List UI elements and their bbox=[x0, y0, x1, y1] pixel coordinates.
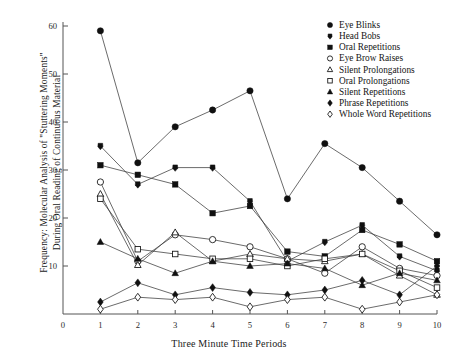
legend-label: Head Bobs bbox=[339, 31, 380, 41]
data-point bbox=[135, 160, 141, 166]
legend-label: Silent Prolongations bbox=[339, 65, 415, 75]
legend-item-phrase-repetitions: Phrase Repetitions bbox=[328, 98, 409, 108]
series-line bbox=[100, 194, 437, 295]
data-point bbox=[172, 124, 178, 130]
data-point bbox=[135, 293, 141, 301]
data-point bbox=[172, 182, 178, 188]
data-point bbox=[322, 239, 327, 245]
data-point bbox=[327, 22, 332, 27]
data-point bbox=[98, 196, 104, 202]
data-point bbox=[328, 45, 333, 50]
x-tick-label: 1 bbox=[98, 320, 102, 330]
legend-label: Eye Blinks bbox=[339, 20, 380, 30]
series-silent-repetitions bbox=[97, 239, 440, 288]
series-whole-word-repetitions bbox=[98, 291, 440, 313]
data-point bbox=[328, 78, 333, 83]
x-tick-label: 8 bbox=[360, 320, 364, 330]
data-point bbox=[284, 196, 290, 202]
figure-container: Frequency: Molecular Analysis of "Stutte… bbox=[0, 0, 458, 363]
data-point bbox=[247, 203, 253, 209]
data-point bbox=[247, 88, 253, 94]
data-point bbox=[327, 89, 332, 94]
data-point bbox=[247, 251, 254, 257]
data-point bbox=[247, 244, 253, 250]
data-point bbox=[285, 296, 291, 304]
data-point bbox=[135, 172, 141, 178]
data-point bbox=[98, 143, 103, 149]
series-line bbox=[100, 199, 437, 288]
chart-plot: 012345678910102030405060 Eye BlinksHead … bbox=[0, 0, 458, 363]
x-tick-label: 5 bbox=[248, 320, 252, 330]
data-point bbox=[98, 305, 104, 313]
data-point bbox=[328, 111, 333, 117]
data-point bbox=[359, 305, 365, 313]
legend-label: Eye Brow Raises bbox=[339, 53, 403, 63]
legend-item-head-bobs: Head Bobs bbox=[328, 31, 381, 41]
series-line bbox=[100, 165, 437, 261]
x-tick-label: 7 bbox=[323, 320, 328, 330]
data-point bbox=[397, 242, 403, 248]
series-phrase-repetitions bbox=[98, 262, 440, 306]
data-point bbox=[322, 293, 328, 301]
data-point bbox=[359, 227, 365, 233]
x-tick-label: 4 bbox=[210, 320, 215, 330]
data-point bbox=[97, 191, 104, 197]
legend-item-silent-prolongations: Silent Prolongations bbox=[327, 65, 415, 75]
data-point bbox=[210, 293, 216, 301]
data-point bbox=[135, 279, 141, 287]
x-tick-label: 0 bbox=[61, 320, 65, 330]
series-silent-prolongations bbox=[97, 191, 440, 298]
data-point bbox=[359, 251, 365, 257]
data-point bbox=[434, 232, 440, 238]
legend-label: Whole Word Repetitions bbox=[339, 109, 431, 119]
data-point bbox=[172, 296, 178, 304]
data-point bbox=[173, 165, 178, 171]
legend-item-whole-word-repetitions: Whole Word Repetitions bbox=[328, 109, 432, 119]
data-point bbox=[97, 239, 104, 245]
data-point bbox=[434, 285, 440, 291]
x-tick-label: 6 bbox=[285, 320, 290, 330]
x-tick-label: 2 bbox=[136, 320, 140, 330]
data-point bbox=[98, 162, 104, 168]
data-point bbox=[397, 298, 403, 306]
legend-item-oral-prolongations: Oral Prolongations bbox=[328, 76, 410, 86]
legend-label: Oral Repetitions bbox=[339, 42, 401, 52]
x-tick-label: 9 bbox=[397, 320, 401, 330]
data-point bbox=[328, 34, 332, 39]
data-point bbox=[322, 140, 328, 146]
data-point bbox=[97, 28, 103, 34]
legend-label: Phrase Repetitions bbox=[339, 98, 409, 108]
series-oral-prolongations bbox=[98, 196, 440, 290]
data-point bbox=[322, 256, 328, 262]
y-tick-label: 50 bbox=[48, 69, 57, 79]
legend-item-eye-brow-raises: Eye Brow Raises bbox=[327, 53, 403, 63]
data-point bbox=[328, 100, 333, 106]
data-point bbox=[209, 236, 215, 242]
legend-item-eye-blinks: Eye Blinks bbox=[327, 20, 380, 30]
data-point bbox=[172, 229, 179, 235]
chart-legend: Eye BlinksHead BobsOral RepetitionsEye B… bbox=[327, 20, 431, 119]
data-point bbox=[172, 251, 178, 257]
y-tick-label: 40 bbox=[48, 117, 57, 127]
data-point bbox=[247, 256, 253, 262]
data-point bbox=[210, 165, 215, 171]
y-tick-label: 10 bbox=[48, 261, 57, 271]
series-oral-repetitions bbox=[98, 162, 440, 264]
legend-label: Oral Prolongations bbox=[339, 76, 410, 86]
data-point bbox=[135, 182, 140, 188]
data-point bbox=[210, 284, 216, 292]
data-point bbox=[285, 249, 291, 255]
data-point bbox=[397, 254, 402, 260]
x-tick-label: 3 bbox=[173, 320, 177, 330]
data-point bbox=[247, 303, 253, 311]
data-point bbox=[209, 107, 215, 113]
series-line bbox=[100, 242, 437, 285]
series-line bbox=[100, 295, 437, 309]
x-axis-label: Three Minute Time Periods bbox=[0, 338, 458, 349]
data-point bbox=[247, 289, 253, 297]
data-point bbox=[327, 56, 332, 61]
data-point bbox=[97, 179, 103, 185]
legend-item-silent-repetitions: Silent Repetitions bbox=[327, 87, 405, 97]
x-tick-label: 10 bbox=[433, 320, 442, 330]
data-point bbox=[396, 198, 402, 204]
